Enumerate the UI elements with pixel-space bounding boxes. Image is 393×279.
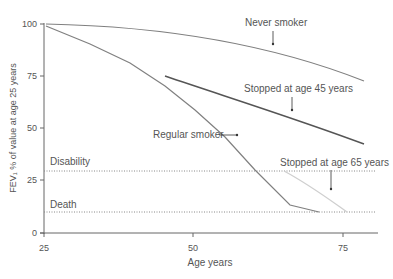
- death-label: Death: [50, 199, 77, 210]
- y-tick-0: 0: [32, 228, 37, 238]
- y-tick-50: 50: [27, 123, 37, 133]
- x-axis-label: Age years: [187, 257, 232, 268]
- disability-label: Disability: [50, 156, 90, 167]
- arrow-icon: [291, 109, 293, 111]
- x-tick-25: 25: [39, 243, 49, 253]
- y-tick-25: 25: [27, 175, 37, 185]
- y-tick-75: 75: [27, 71, 37, 81]
- never-smoker-line: [46, 24, 364, 81]
- regular-smoker-label: Regular smoker: [153, 129, 224, 140]
- never-smoker-label: Never smoker: [245, 17, 308, 28]
- stopped-45-label: Stopped at age 45 years: [244, 83, 353, 94]
- stopped-65-label: Stopped at age 65 years: [280, 157, 389, 168]
- y-axis-label: FEV₁ % of value at age 25 years: [8, 63, 18, 193]
- arrow-icon: [330, 188, 332, 190]
- arrow-icon: [236, 134, 238, 136]
- x-tick-75: 75: [338, 243, 348, 253]
- x-tick-50: 50: [188, 243, 198, 253]
- arrow-icon: [272, 43, 274, 45]
- fev-chart: 0 25 50 75 100 25 50 75 Age years FEV₁ %…: [0, 0, 393, 279]
- y-tick-100: 100: [22, 19, 37, 29]
